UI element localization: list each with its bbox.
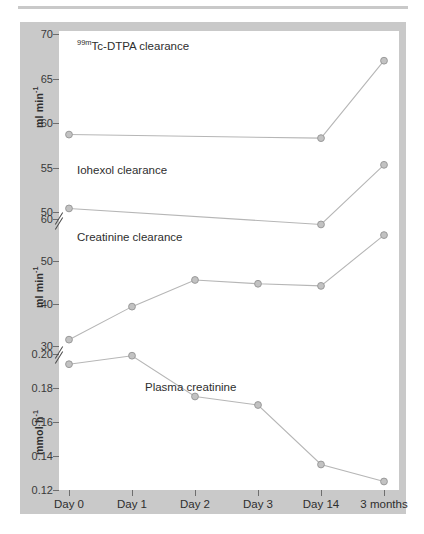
y-tick-label: 55	[41, 162, 53, 173]
y3-title-text: mmol h	[33, 416, 45, 455]
data-point	[255, 402, 262, 409]
series-label-iohexol: Iohexol clearance	[77, 164, 167, 176]
y-tick-mark	[53, 490, 59, 491]
y-axis-title-2: ml min-1	[32, 266, 45, 308]
data-point	[381, 232, 388, 239]
y3-title-exp: -1	[32, 410, 39, 417]
data-point	[129, 303, 136, 310]
y2-title-text: ml min	[33, 273, 45, 308]
data-point	[66, 131, 73, 138]
data-point	[381, 57, 388, 64]
y-axis-title-1: ml min-1	[32, 86, 45, 128]
x-tick-label: 3 months	[360, 498, 407, 510]
data-point	[255, 280, 262, 287]
x-tick-label: Day 3	[243, 498, 273, 510]
data-point	[318, 461, 325, 468]
tc-dtpa-text: Tc-DTPA clearance	[92, 40, 190, 52]
plot-area: 7065605550605040300.200.180.160.140.12 D…	[59, 31, 399, 490]
y1-title-exp: -1	[32, 86, 39, 93]
data-point	[318, 135, 325, 142]
data-point	[318, 221, 325, 228]
data-point	[66, 361, 73, 368]
y-tick-label: 70	[41, 29, 53, 40]
tc-dtpa-superscript: 99m	[77, 38, 92, 47]
y1-title-text: ml min	[33, 93, 45, 128]
series-label-tc-dtpa: 99mTc-DTPA clearance	[77, 38, 189, 52]
data-point	[129, 352, 136, 359]
x-tick-mark	[384, 490, 385, 496]
series-label-plasma-creatinine: Plasma creatinine	[145, 381, 236, 393]
series-line	[69, 235, 384, 340]
x-tick-mark	[195, 490, 196, 496]
series-line	[69, 61, 384, 138]
top-divider-rule	[18, 6, 408, 9]
data-point	[318, 282, 325, 289]
data-point	[192, 393, 199, 400]
data-point	[66, 205, 73, 212]
data-point	[381, 161, 388, 168]
figure-root: 7065605550605040300.200.180.160.140.12 D…	[0, 0, 424, 534]
data-point	[66, 336, 73, 343]
data-point	[381, 478, 388, 485]
x-tick-label: Day 1	[117, 498, 147, 510]
y-tick-label: 65	[41, 73, 53, 84]
x-tick-label: Day 14	[303, 498, 339, 510]
x-tick-mark	[69, 490, 70, 496]
series-line	[69, 356, 384, 482]
x-tick-mark	[132, 490, 133, 496]
y-tick-label: 0.12	[32, 485, 53, 496]
x-tick-mark	[321, 490, 322, 496]
series-plot	[59, 31, 399, 490]
y-tick-label: 0.20	[32, 349, 53, 360]
y-axis-title-3: mmol h-1	[32, 410, 45, 455]
data-point	[192, 277, 199, 284]
y-tick-label: 0.18	[32, 383, 53, 394]
y2-title-exp: -1	[32, 266, 39, 273]
y-tick-label: 50	[41, 256, 53, 267]
x-tick-label: Day 0	[54, 498, 84, 510]
x-tick-label: Day 2	[180, 498, 210, 510]
x-tick-mark	[258, 490, 259, 496]
series-label-creatinine-clearance: Creatinine clearance	[77, 231, 182, 243]
